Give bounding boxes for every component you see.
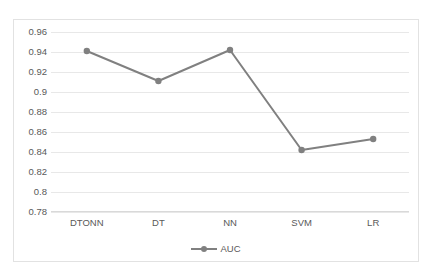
y-tick-label: 0.82: [29, 167, 48, 177]
chart-container: 0.960.940.920.90.880.860.840.820.80.78 D…: [13, 19, 419, 262]
legend-item[interactable]: AUC: [191, 244, 240, 254]
x-tick-label: NN: [223, 218, 237, 228]
data-point-marker: [370, 136, 376, 142]
gridline: [51, 212, 409, 213]
series-auc: [51, 32, 409, 212]
chart-legend: AUC: [14, 244, 418, 254]
series-line: [87, 50, 373, 150]
plot-area: 0.960.940.920.90.880.860.840.820.80.78 D…: [51, 32, 409, 212]
x-tick-label: SVM: [291, 218, 312, 228]
data-point-marker: [155, 78, 161, 84]
data-point-marker: [298, 147, 304, 153]
y-tick-label: 0.86: [29, 127, 48, 137]
y-tick-label: 0.96: [29, 27, 48, 37]
x-tick-label: DTONN: [70, 218, 104, 228]
y-tick-label: 0.84: [29, 147, 48, 157]
x-tick-label: LR: [367, 218, 379, 228]
data-point-marker: [227, 47, 233, 53]
y-tick-label: 0.94: [29, 47, 48, 57]
y-tick-label: 0.92: [29, 67, 48, 77]
y-tick-label: 0.9: [34, 87, 47, 97]
y-tick-label: 0.88: [29, 107, 48, 117]
data-point-marker: [84, 48, 90, 54]
legend-label: AUC: [220, 244, 240, 254]
y-tick-label: 0.8: [34, 187, 47, 197]
y-tick-label: 0.78: [29, 207, 48, 217]
legend-marker-icon: [191, 244, 217, 254]
x-tick-label: DT: [152, 218, 165, 228]
